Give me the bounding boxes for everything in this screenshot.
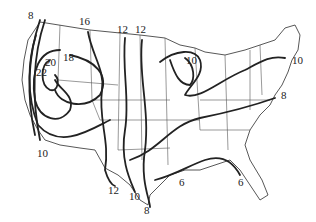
isoline-label: 22 (36, 67, 47, 78)
isoline-label: 12 (108, 185, 119, 196)
isoline-label: 10 (129, 191, 140, 202)
state-borders (58, 25, 270, 165)
isoline-label: 10 (186, 55, 197, 66)
isoline-label: 12 (117, 24, 128, 35)
isoline-label: 8 (281, 90, 287, 101)
isoline-label: 8 (28, 10, 34, 21)
isoline-label: 10 (292, 55, 303, 66)
isoline-label: 8 (144, 205, 150, 216)
isoline-label: 6 (238, 177, 244, 188)
isoline-label: 10 (37, 148, 48, 159)
us-isoline-map (0, 0, 316, 222)
isoline-label: 12 (135, 24, 146, 35)
isoline-label: 18 (63, 52, 74, 63)
isoline-label: 16 (79, 16, 90, 27)
isoline-label: 6 (179, 177, 185, 188)
isolines (30, 20, 286, 207)
